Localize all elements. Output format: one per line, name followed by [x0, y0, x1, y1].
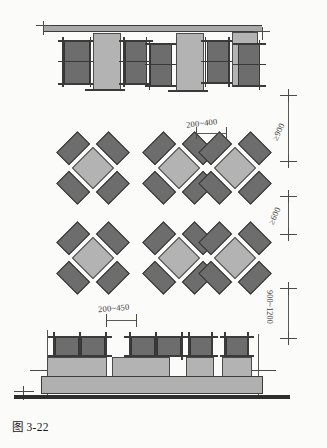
table	[93, 33, 121, 90]
chair-post	[53, 332, 55, 360]
chair	[157, 337, 181, 356]
table	[47, 357, 107, 378]
table-chair-cluster	[204, 227, 266, 289]
chair-post	[79, 332, 81, 360]
chair	[207, 41, 229, 83]
figure-caption: 图 3-22	[12, 418, 49, 434]
dimension-tick-200-400-left	[196, 127, 197, 139]
chair	[125, 41, 147, 84]
chair-post-right	[259, 40, 260, 90]
table-rail-bottom	[168, 90, 208, 92]
table-chair-cluster	[204, 137, 266, 199]
chair-post-right	[228, 37, 230, 87]
chair-post-left	[149, 40, 150, 90]
chair-post-right	[90, 37, 91, 87]
wall-strip	[44, 25, 262, 32]
dimension-label-600: ≥600	[266, 205, 283, 226]
chair-post	[211, 332, 213, 360]
table-rail-bottom	[85, 89, 125, 91]
table	[112, 357, 170, 378]
dimension-tick-900-1200-top-cross	[288, 282, 289, 295]
dimension-label-200-400: 200~400	[186, 116, 218, 129]
floor-left-tick	[14, 391, 34, 392]
counter-base	[41, 376, 263, 394]
table-chair-cluster	[62, 227, 124, 289]
dimension-line-200-450	[106, 320, 136, 321]
chair-post	[224, 332, 226, 360]
dimension-label-900-1200: 900~1200	[265, 290, 274, 324]
dimension-line-900	[288, 95, 289, 161]
chair-rail-bottom	[233, 85, 266, 87]
chair-post	[247, 332, 249, 360]
dimension-tick-200-450-left	[106, 314, 107, 327]
dimension-tick-200-400-right	[226, 127, 227, 139]
chair-rail-mid	[233, 64, 266, 65]
chair-post-left	[62, 37, 64, 87]
chair-post	[155, 332, 157, 360]
dimension-label-900: ≥900	[270, 121, 287, 142]
table	[186, 357, 214, 378]
dimension-tick-900-top-cross	[288, 89, 289, 102]
wall-right-tick-vert	[262, 27, 263, 40]
dimension-tick-600-top-cross	[288, 190, 289, 203]
dimension-tick-600-bottom-cross	[288, 228, 289, 241]
table	[176, 33, 204, 91]
dimension-tick-900-bottom-cross	[288, 155, 289, 168]
chair-post	[129, 332, 131, 360]
figure-canvas: ≥900 ≥600 900~1200 200~400 200~450 图 3-2…	[0, 0, 327, 448]
dimension-tick-200-450-right	[136, 314, 137, 327]
chair	[226, 337, 248, 356]
dimension-label-200-450: 200~450	[98, 302, 130, 315]
counter-right-tick	[252, 370, 276, 371]
floor-line	[14, 395, 290, 399]
chair	[81, 337, 105, 356]
chair-post	[105, 332, 107, 360]
chair	[64, 41, 90, 84]
table	[222, 357, 252, 378]
chair	[238, 44, 260, 86]
chair	[190, 337, 212, 356]
chair	[131, 337, 155, 356]
chair	[55, 337, 79, 356]
chair	[150, 44, 172, 86]
dimension-line-200-400	[196, 133, 226, 134]
table-chair-cluster	[62, 137, 124, 199]
chair-rail-top	[233, 43, 266, 45]
chair-post	[181, 332, 183, 360]
dimension-tick-900-1200-bottom-cross	[288, 332, 289, 345]
chair-post-left	[205, 37, 206, 87]
wall-left-tick-vert	[43, 21, 44, 35]
dimension-line-900-1200	[288, 288, 289, 338]
chair-post	[188, 332, 190, 360]
chair-post-left	[123, 37, 125, 87]
